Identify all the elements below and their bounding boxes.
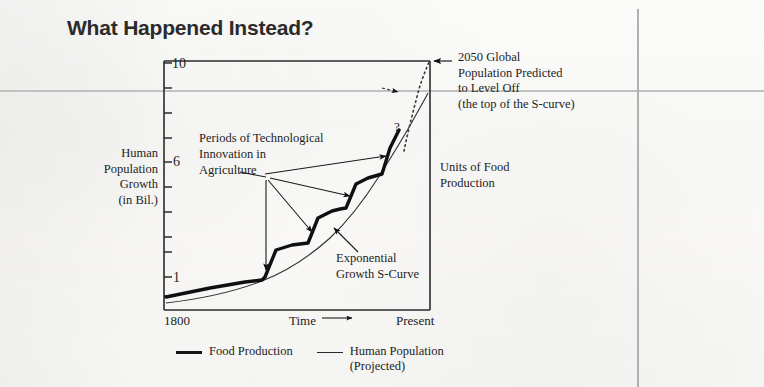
y-tick-label-6: 6 [173, 154, 180, 169]
legend-label-human-population: Human Population (Projected) [350, 344, 444, 374]
y-axis-ticks [164, 63, 172, 296]
y-tick-label-10: 10 [172, 56, 186, 71]
annotation-2050-level-off: 2050 Global Population Predicted to Leve… [458, 50, 638, 112]
legend-item-human-population: Human Population (Projected) [317, 344, 444, 374]
legend-item-food-production: Food Production [176, 344, 293, 359]
legend-label-food-production: Food Production [209, 344, 293, 359]
annotation-exponential-s-curve: Exponential Growth S-Curve [336, 250, 486, 282]
x-axis-label-start: 1800 [164, 313, 190, 328]
y-axis-label-right: Units of Food Production [440, 160, 560, 191]
y-tick-label-1: 1 [173, 270, 180, 285]
legend-swatch-thick-line [176, 351, 202, 354]
x-axis-label-mid: Time [289, 313, 316, 328]
scurve-annotation-arrow [334, 228, 358, 252]
series-projection-dotted [404, 62, 429, 151]
chart-figure: Human Population Growth (in Bil.) Units … [0, 0, 764, 387]
x-axis-label-end: Present [396, 313, 434, 328]
annotation-question-mark: ? [394, 119, 400, 134]
annotation-technological-innovation: Periods of Technological Innovation in A… [199, 130, 379, 178]
y-axis-label-left: Human Population Growth (in Bil.) [92, 146, 158, 208]
chart-legend: Food Production Human Population (Projec… [176, 344, 444, 374]
legend-swatch-thin-line [317, 352, 343, 353]
projection-pointer-arrow [382, 88, 398, 92]
